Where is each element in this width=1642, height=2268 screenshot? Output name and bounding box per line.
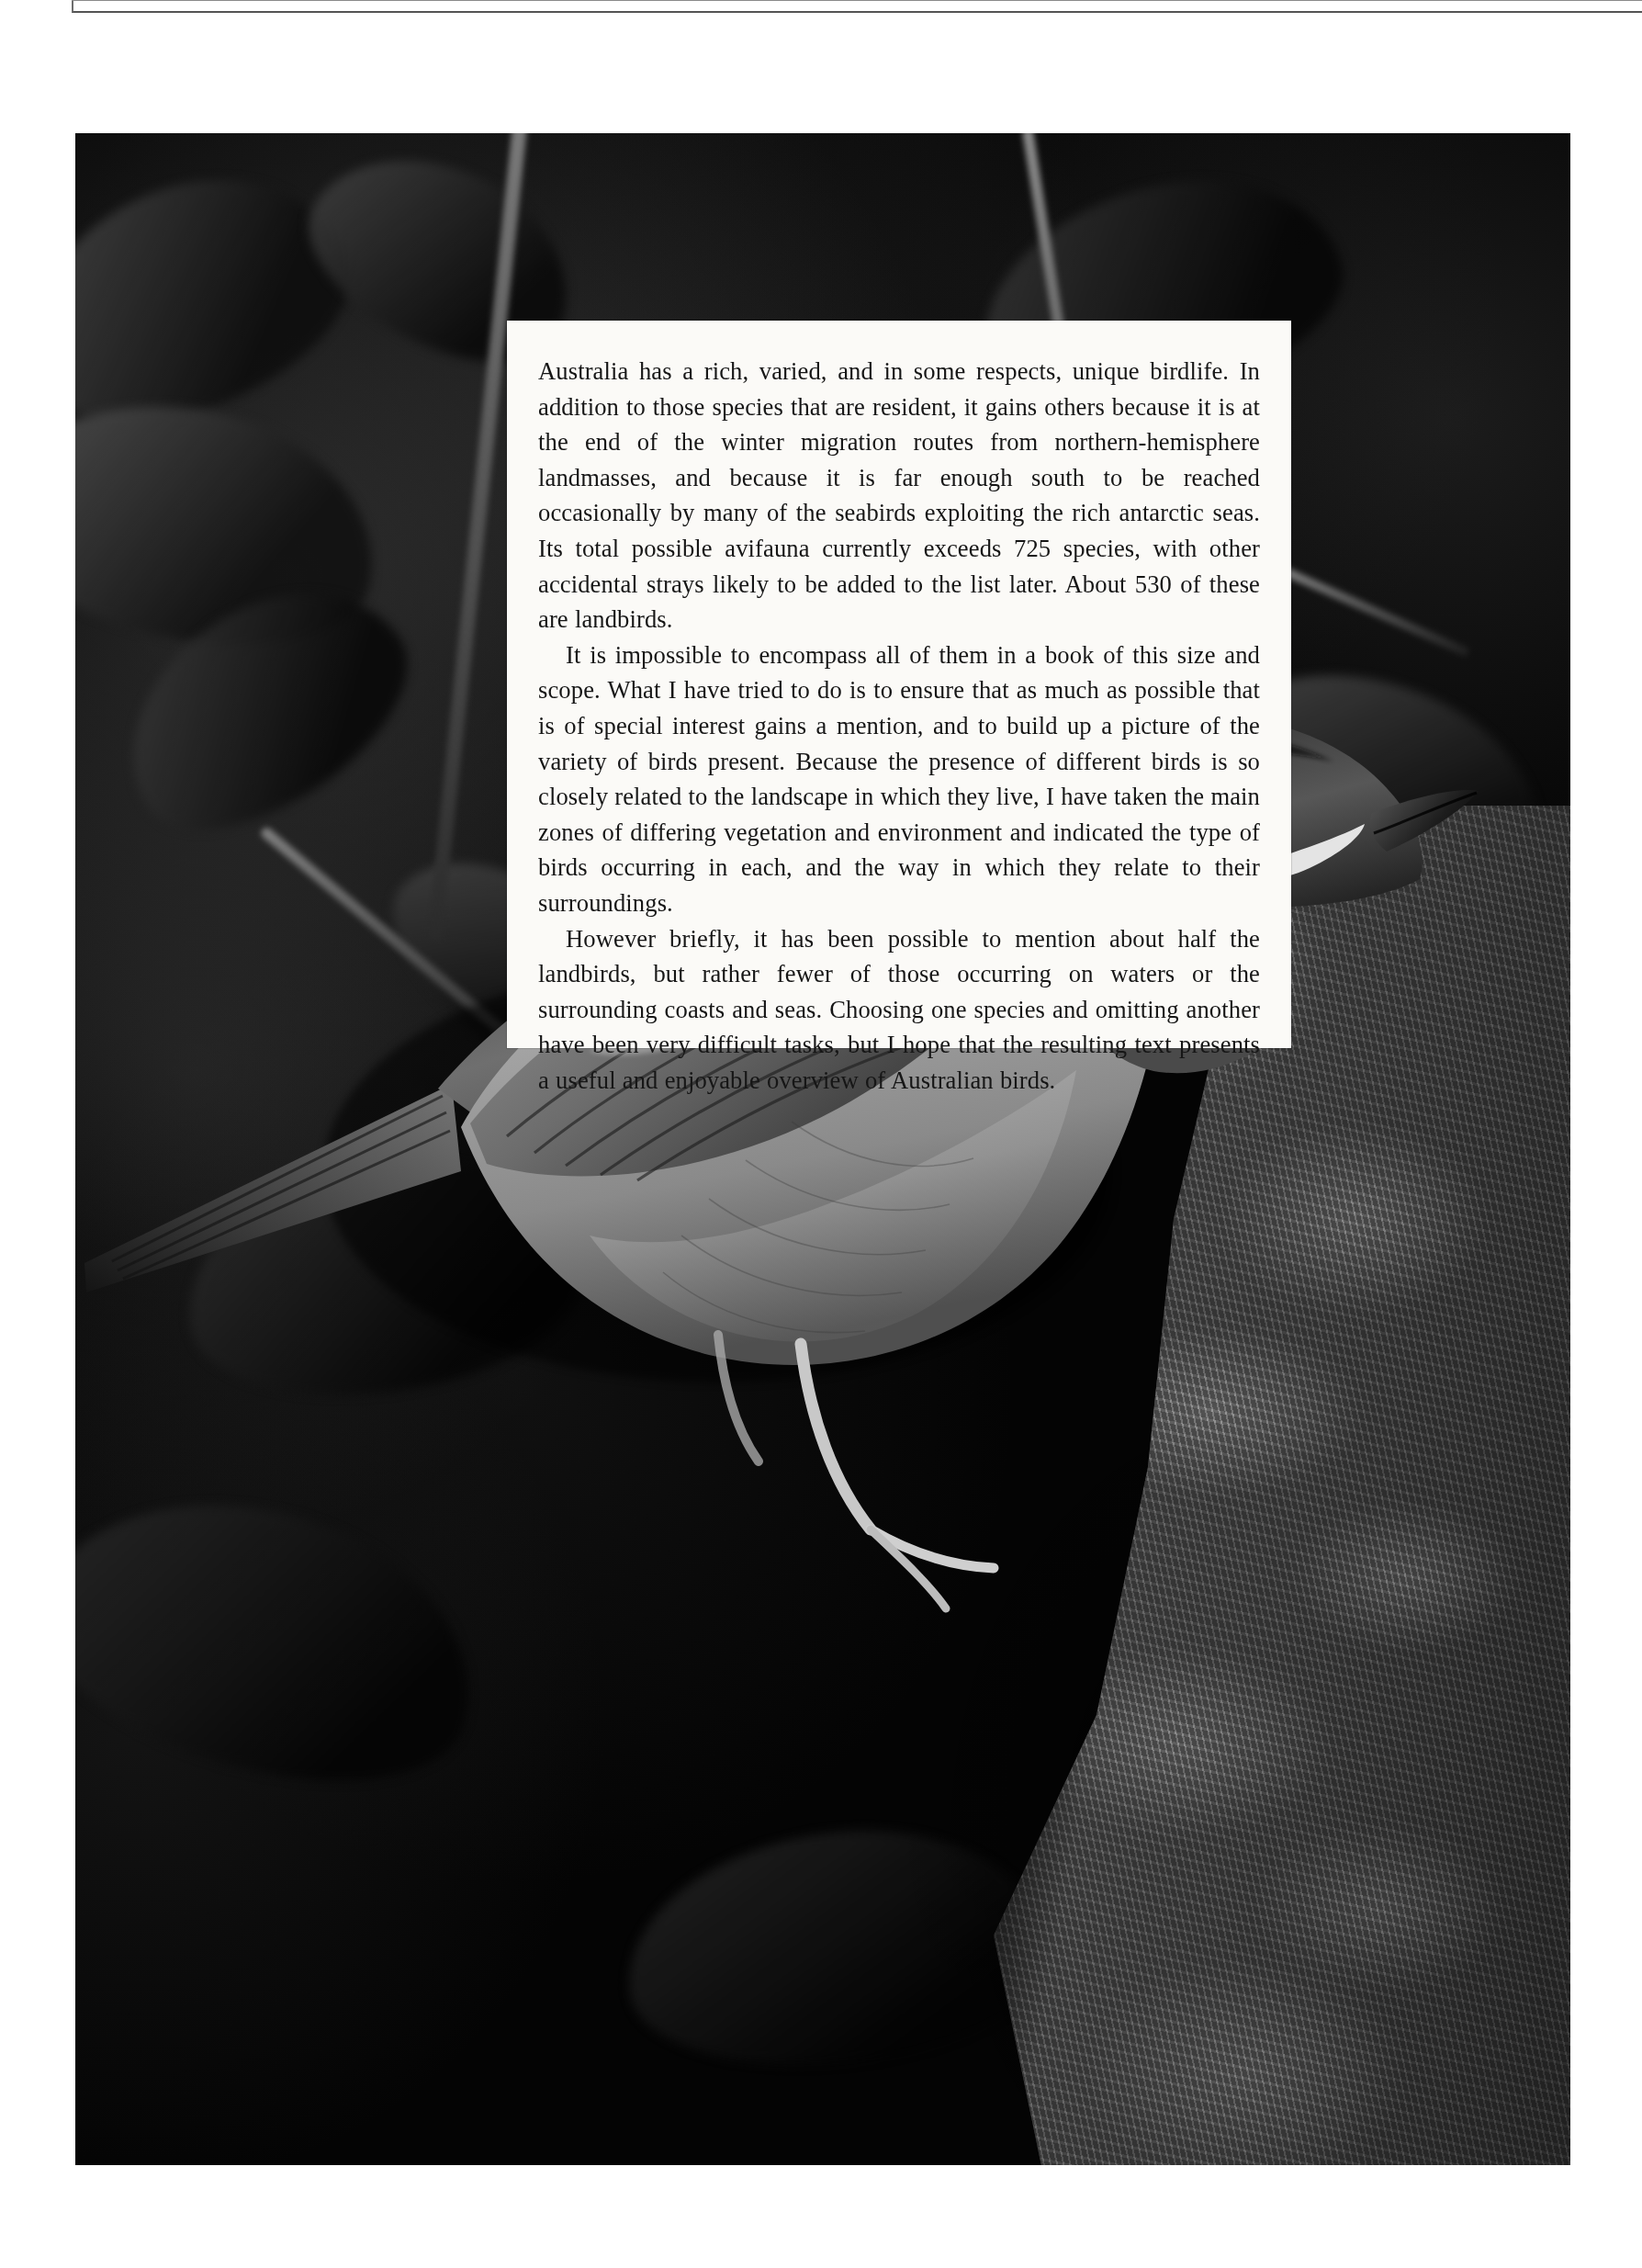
photograph: Australia has a rich, varied, and in som… (75, 133, 1570, 2165)
paragraph-1: Australia has a rich, varied, and in som… (538, 354, 1260, 638)
scan-edge-rule (72, 0, 1642, 13)
inset-text-panel: Australia has a rich, varied, and in som… (507, 321, 1291, 1048)
paragraph-3: However briefly, it has been possible to… (538, 921, 1260, 1099)
bird-foot-toe (871, 1529, 946, 1608)
paragraph-2: It is impossible to encompass all of the… (538, 638, 1260, 921)
